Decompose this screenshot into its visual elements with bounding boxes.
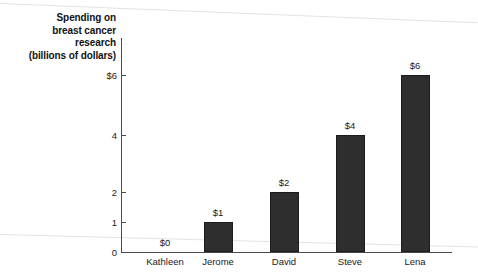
bar-jerome[interactable] <box>204 222 233 252</box>
y-axis-title-line-4: (billions of dollars) <box>8 50 116 63</box>
y-tick-mark-4 <box>121 135 126 136</box>
bar-value-lena: $6 <box>393 61 437 71</box>
y-tick-label-0: 0 <box>91 248 117 258</box>
y-tick-label-2: 2 <box>91 188 117 198</box>
y-axis-title-line-3: research <box>8 37 116 50</box>
x-axis-label-jerome: Jerome <box>196 257 240 267</box>
y-axis-title-line-2: breast cancer <box>8 25 116 38</box>
x-axis-label-david: David <box>262 257 306 267</box>
y-tick-label-4: 4 <box>91 131 117 141</box>
y-axis-title: Spending on breast cancer research (bill… <box>8 12 116 62</box>
bar-value-david: $2 <box>262 178 306 188</box>
y-axis-line <box>121 38 122 253</box>
bar-steve[interactable] <box>336 135 365 252</box>
bar-david[interactable] <box>270 192 299 252</box>
y-tick-mark-1 <box>121 222 126 223</box>
bar-value-kathleen: $0 <box>143 238 187 248</box>
y-tick-mark-0 <box>121 252 126 253</box>
y-tick-mark-6 <box>121 75 126 76</box>
bar-value-steve: $4 <box>328 121 372 131</box>
y-tick-label-6: $6 <box>91 71 117 81</box>
y-axis-title-line-1: Spending on <box>8 12 116 25</box>
x-axis-line <box>121 252 452 253</box>
x-axis-label-steve: Steve <box>328 257 372 267</box>
x-axis-label-lena: Lena <box>393 257 437 267</box>
x-axis-label-kathleen: Kathleen <box>133 257 197 267</box>
bar-lena[interactable] <box>401 75 430 252</box>
y-tick-label-1: 1 <box>91 218 117 228</box>
y-tick-mark-2 <box>121 192 126 193</box>
bar-value-jerome: $1 <box>196 208 240 218</box>
